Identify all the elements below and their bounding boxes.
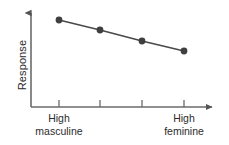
response-by-gender-role-line-chart: Response High masculine High feminine [0, 0, 229, 145]
x-tick-label-left-line2: masculine [19, 125, 99, 138]
data-point-2 [97, 27, 104, 34]
x-tick-label-high-feminine: High feminine [144, 112, 224, 137]
x-tick-label-high-masculine: High masculine [19, 112, 99, 137]
x-tick-label-right-line1: High [144, 112, 224, 125]
data-line-response [59, 20, 184, 51]
data-point-4 [181, 48, 188, 55]
data-point-1 [56, 17, 63, 24]
x-axis-ticks [59, 100, 184, 107]
x-tick-label-left-line1: High [19, 112, 99, 125]
y-axis-label: Response [13, 10, 31, 120]
data-point-3 [139, 38, 146, 45]
x-tick-label-right-line2: feminine [144, 125, 224, 138]
